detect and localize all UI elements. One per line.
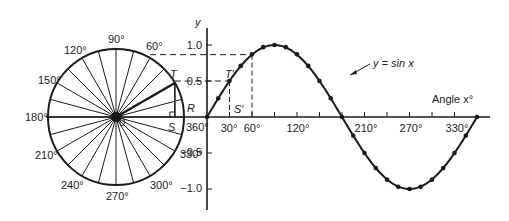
x-axis-label: Angle x°: [432, 93, 473, 105]
data-point: [441, 166, 446, 171]
point-S-label: S: [168, 121, 176, 133]
y-tick-label: −0.5: [180, 146, 202, 158]
circle-angle-label: 90°: [108, 33, 125, 45]
radius-line: [50, 99, 116, 117]
data-point: [306, 64, 311, 69]
data-point: [475, 115, 480, 120]
data-point: [351, 133, 356, 138]
point-T-label: T: [170, 68, 178, 80]
x-tick-label: 210°: [355, 122, 378, 134]
point-S-prime-label: S′: [234, 103, 244, 115]
data-point: [283, 45, 288, 50]
data-point: [452, 151, 457, 156]
data-point: [396, 185, 401, 190]
data-point: [216, 96, 221, 101]
point-R-label: R: [187, 102, 195, 114]
y-tick-label: 1.0: [187, 39, 202, 51]
data-point: [238, 64, 243, 69]
data-point: [272, 43, 277, 48]
x-tick-label: 270°: [400, 122, 423, 134]
curve-label: y = sin x: [372, 57, 414, 69]
data-point: [261, 45, 266, 50]
y-axis-label: y: [194, 16, 202, 28]
y-tick-label: −1.0: [180, 182, 202, 194]
circle-angle-label: 240°: [61, 179, 84, 191]
origin-label: 0: [119, 116, 125, 128]
data-point: [373, 166, 378, 171]
data-point: [362, 151, 367, 156]
y-tick-label: 0.5: [187, 75, 202, 87]
radius-line: [50, 117, 116, 135]
data-point: [463, 133, 468, 138]
data-point: [328, 96, 333, 101]
data-point: [385, 177, 390, 182]
data-point: [250, 52, 255, 57]
circle-angle-label: 180°: [25, 111, 48, 123]
labels: 90°60°120°150°180°210°240°270°300°330°36…: [25, 16, 473, 202]
data-point: [205, 115, 210, 120]
point-T-prime-label: T′: [225, 68, 235, 80]
data-point: [317, 79, 322, 84]
circle-angle-label: 300°: [150, 179, 173, 191]
data-point: [418, 185, 423, 190]
x-tick-label: 30°: [221, 122, 238, 134]
circle-angle-label: 150°: [38, 74, 61, 86]
x-tick-label: 60°: [244, 122, 261, 134]
data-point: [295, 52, 300, 57]
data-point: [340, 115, 345, 120]
arrowhead: [350, 70, 357, 75]
x-tick-label: 330°: [446, 122, 469, 134]
x-tick-label: 120°: [287, 122, 310, 134]
circle-angle-label: 120°: [64, 44, 87, 56]
sine-wave-diagram: 90°60°120°150°180°210°240°270°300°330°36…: [0, 0, 509, 221]
circle-angle-label: 60°: [146, 40, 163, 52]
unit-circle: [46, 49, 490, 185]
circle-angle-label: 210°: [35, 149, 58, 161]
data-point: [407, 187, 412, 192]
circle-angle-label: 360°: [186, 121, 209, 133]
data-point: [430, 177, 435, 182]
radius-line: [98, 51, 116, 117]
radius-line: [116, 99, 182, 117]
circle-angle-label: 270°: [106, 190, 129, 202]
radius-line: [98, 117, 116, 183]
